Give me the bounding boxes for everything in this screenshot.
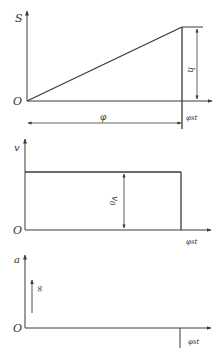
phi-label: φ: [100, 112, 107, 122]
acceleration-plot: a O ∞ φst: [13, 254, 211, 348]
s-axis-label: S: [15, 12, 23, 25]
v-x-end-label: φst: [186, 238, 197, 246]
a-x-end-label: φst: [188, 338, 199, 346]
svg-text:v0: v0: [108, 196, 120, 206]
velocity-plot: v O v0 φst: [13, 139, 211, 246]
s-origin-label: O: [13, 95, 22, 108]
a-axis-label: a: [14, 254, 20, 265]
infinity-label: ∞: [35, 285, 45, 293]
s-x-end-label: φst: [186, 114, 197, 122]
v-axis-label: v: [14, 142, 20, 153]
motion-diagram: S O h φ φst v O v0 φst a O ∞ φst: [0, 0, 224, 363]
displacement-plot: S O h φ φst: [13, 11, 212, 129]
s-ramp-line: [27, 27, 182, 101]
v-origin-label: O: [13, 224, 22, 237]
v0-label: v0: [108, 196, 120, 206]
a-origin-label: O: [13, 322, 22, 335]
h-label: h: [186, 67, 196, 73]
